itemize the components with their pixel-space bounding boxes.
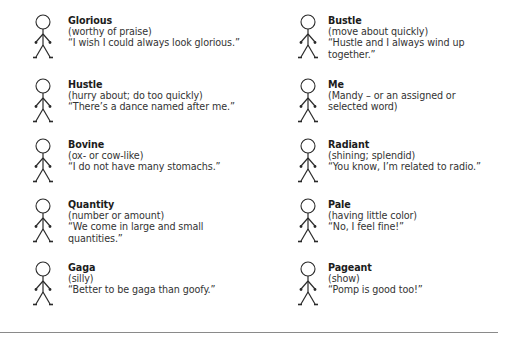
entry-quote: “Hustle and I always wind up together.”: [328, 37, 503, 59]
vocab-entry-me: Me (Mandy – or an assigned or selected w…: [295, 78, 506, 136]
vocab-entry-radiant: Radiant (shining; splendid) “You know, I…: [295, 138, 506, 196]
entry-word: Me: [328, 79, 478, 90]
entry-definition: (having little color): [328, 210, 506, 221]
entry-definition: (ox- or cow-like): [68, 150, 258, 161]
entry-word: Gaga: [68, 262, 258, 273]
vocab-entry-pageant: Pageant (show) “Pomp is good too!”: [295, 261, 506, 319]
entry-definition: (show): [328, 273, 506, 284]
entry-word: Glorious: [68, 15, 258, 26]
entry-quote: “I wish I could always look glorious.”: [68, 37, 258, 48]
stick-figure-icon: [30, 261, 56, 307]
entry-word: Pale: [328, 199, 506, 210]
entry-word: Hustle: [68, 79, 258, 90]
entry-word: Quantity: [68, 199, 243, 210]
entry-quote: “Pomp is good too!”: [328, 284, 506, 295]
vocab-entry-quantity: Quantity (number or amount) “We come in …: [30, 198, 265, 256]
vocab-entry-pale: Pale (having little color) “No, I feel f…: [295, 198, 506, 256]
entry-definition: (move about quickly): [328, 26, 503, 37]
vocab-entry-bovine: Bovine (ox- or cow-like) “I do not have …: [30, 138, 265, 196]
stick-figure-icon: [295, 78, 321, 124]
entry-word: Pageant: [328, 262, 506, 273]
stick-figure-icon: [30, 14, 56, 60]
vocab-entry-gaga: Gaga (silly) “Better to be gaga than goo…: [30, 261, 265, 319]
entry-definition: (shining; splendid): [328, 150, 506, 161]
vocab-entry-hustle: Hustle (hurry about; do too quickly) “Th…: [30, 78, 265, 136]
entry-definition: (worthy of praise): [68, 26, 258, 37]
entry-quote: “I do not have many stomachs.”: [68, 161, 258, 172]
entry-quote: “We come in large and small quantities.”: [68, 221, 243, 243]
stick-figure-icon: [295, 198, 321, 244]
vocab-entry-bustle: Bustle (move about quickly) “Hustle and …: [295, 14, 506, 72]
entry-quote: “No, I feel fine!”: [328, 221, 506, 232]
stick-figure-icon: [30, 138, 56, 184]
stick-figure-icon: [295, 138, 321, 184]
stick-figure-icon: [295, 261, 321, 307]
entry-definition: (Mandy – or an assigned or selected word…: [328, 90, 478, 112]
entry-definition: (number or amount): [68, 210, 243, 221]
entry-definition: (silly): [68, 273, 258, 284]
entry-word: Bustle: [328, 15, 503, 26]
entry-word: Bovine: [68, 139, 258, 150]
entry-quote: “You know, I’m related to radio.”: [328, 161, 506, 172]
entry-quote: “Better to be gaga than goofy.”: [68, 284, 258, 295]
stick-figure-icon: [30, 78, 56, 124]
stick-figure-icon: [295, 14, 321, 60]
entry-word: Radiant: [328, 139, 506, 150]
entry-quote: “There’s a dance named after me.”: [68, 101, 258, 112]
bottom-divider: [0, 332, 498, 333]
vocab-entry-glorious: Glorious (worthy of praise) “I wish I co…: [30, 14, 265, 72]
entry-definition: (hurry about; do too quickly): [68, 90, 258, 101]
stick-figure-icon: [30, 198, 56, 244]
